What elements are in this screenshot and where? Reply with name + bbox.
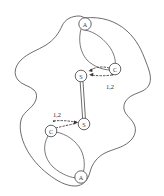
- edge-label-top: 1,2: [106, 83, 114, 90]
- blob-boundary-group: [15, 16, 150, 186]
- node-c-bottom-label: C: [49, 128, 53, 135]
- upper-lobe-inner-path: [80, 29, 110, 70]
- edge-c-to-s-top-branch-arrowhead: [89, 73, 93, 77]
- node-a-top[interactable]: A: [79, 18, 91, 30]
- blob-outline-path: [15, 16, 150, 186]
- figure-canvas: 1,2 1,2 A C S S C A: [0, 0, 164, 196]
- upper-lobe-outer-path: [85, 30, 115, 66]
- node-c-top-label: C: [113, 66, 117, 73]
- lower-lobe-outer-path: [45, 136, 77, 178]
- node-s-bottom[interactable]: S: [78, 118, 90, 130]
- node-s-top-label: S: [79, 73, 83, 80]
- figure-drawing: 1,2 1,2 A C S S C A: [0, 0, 164, 196]
- edge-label-bottom: 1,2: [53, 111, 61, 118]
- node-s-top[interactable]: S: [75, 70, 87, 82]
- upper-lobe-group: [80, 29, 116, 70]
- edge-c-to-s-bottom: [53, 120, 78, 128]
- edge-c-to-s-top-arrowhead: [88, 68, 92, 72]
- lower-lobe-inner-path: [56, 132, 84, 173]
- edge-s-to-s: [80, 82, 85, 118]
- edge-s-to-s-left-rail: [80, 82, 82, 118]
- edge-c-to-s-bottom-node-dot: [53, 120, 55, 122]
- edge-c-to-s-top-branch-path: [91, 75, 112, 76]
- node-a-top-label: A: [83, 21, 88, 28]
- node-c-bottom[interactable]: C: [45, 125, 57, 137]
- node-a-bottom[interactable]: A: [75, 171, 87, 183]
- node-a-bottom-label: A: [79, 174, 84, 181]
- edge-c-to-s-bottom-branch-path: [54, 121, 76, 122]
- edge-s-to-s-right-rail: [83, 82, 85, 118]
- node-c-top[interactable]: C: [109, 63, 121, 75]
- node-s-bottom-label: S: [82, 121, 86, 128]
- edge-c-to-s-bottom-path: [56, 123, 76, 128]
